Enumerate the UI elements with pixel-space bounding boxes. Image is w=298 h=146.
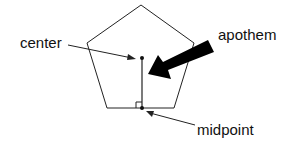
midpoint-pointer-line	[150, 113, 195, 125]
center-pointer-arrowhead	[127, 54, 136, 60]
center-pointer-line	[68, 45, 132, 58]
apothem-label: apothem	[218, 27, 276, 42]
midpoint-point	[140, 106, 144, 110]
apothem-arrow	[148, 40, 214, 79]
midpoint-label: midpoint	[197, 122, 254, 137]
center-point	[140, 56, 144, 60]
midpoint-pointer-arrowhead	[146, 111, 154, 117]
center-label: center	[20, 35, 62, 50]
